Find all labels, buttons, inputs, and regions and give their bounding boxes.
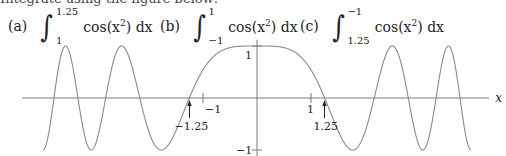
y-tick-label: −1 (236, 144, 252, 156)
x-tick-label: 1 (307, 103, 314, 116)
cos-x-squared-plot: −111−1 −1.251.25 x (0, 0, 506, 156)
y-tick-label: 1 (245, 49, 252, 62)
x-axis-label: x (495, 91, 502, 105)
arrow-label: −1.25 (175, 120, 209, 133)
axis-ticks: −111−1 (203, 46, 314, 156)
x-tick-label: −1 (205, 103, 221, 116)
arrow-label: 1.25 (314, 120, 339, 133)
